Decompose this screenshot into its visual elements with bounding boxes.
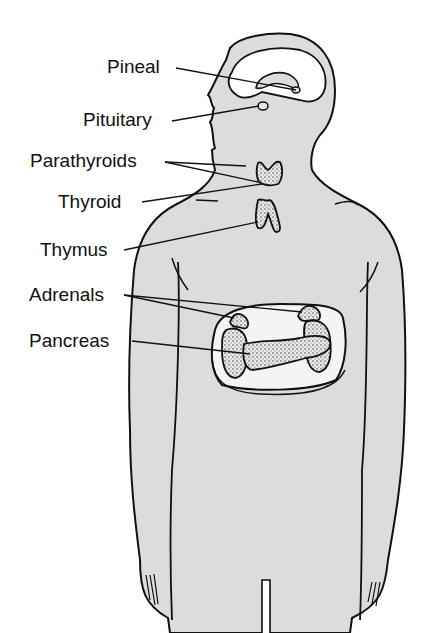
label-pineal: Pineal (107, 57, 160, 76)
label-adrenals: Adrenals (29, 285, 104, 304)
body-figure (0, 0, 422, 633)
label-thyroid: Thyroid (58, 192, 121, 211)
endocrine-diagram: Pineal Pituitary Parathyroids Thyroid Th… (0, 0, 422, 633)
collar-left (196, 200, 218, 201)
crotch-line (262, 580, 270, 633)
label-parathyroids: Parathyroids (30, 151, 137, 170)
label-pituitary: Pituitary (83, 110, 152, 129)
label-pancreas: Pancreas (29, 331, 109, 350)
label-thymus: Thymus (40, 240, 108, 259)
pituitary-gland (258, 102, 268, 110)
